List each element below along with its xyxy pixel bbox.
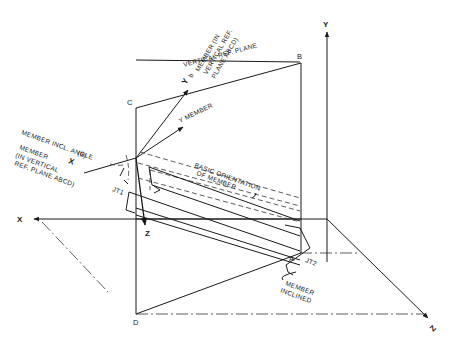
yb-label: Y	[180, 76, 191, 86]
isometric-diagram: Y X Z C B A D Z	[0, 0, 450, 339]
inclination-angle-marker	[120, 155, 129, 184]
x-member-axis-letter: X	[67, 156, 76, 167]
yb-subscript: b	[187, 72, 195, 79]
member-inclined-label-group: MEMBER INCLINED	[280, 272, 316, 304]
diagram-canvas: Y X Z C B A D Z	[0, 0, 450, 339]
vertical-reference-plane-abcd: C B A D	[127, 52, 302, 327]
z-axis-label: Z	[428, 324, 438, 334]
y-axis-label: Y	[323, 20, 329, 29]
basic-orientation-member	[138, 152, 300, 222]
point-c-label: C	[127, 98, 133, 107]
yb-label-group: Y b MEMBER (IN VERTICAL REF. PLANE ABCD)	[180, 28, 240, 86]
y-member-label: Y MEMBER	[177, 101, 213, 123]
joint-2-label: JT2	[305, 256, 319, 267]
point-d-label: D	[133, 318, 139, 327]
point-b-label: B	[297, 52, 302, 61]
ground-plane-lines	[42, 222, 426, 314]
global-y-axis: Y	[323, 20, 329, 262]
y-member-axis	[136, 127, 183, 158]
joint-1-label: JT1	[112, 185, 126, 196]
basic-orientation-label-group: BASIC ORIENTATION OF MEMBER	[194, 161, 262, 198]
member-z-label: Z	[145, 229, 150, 238]
global-z-axis: Z	[327, 219, 438, 333]
x-axis-label: X	[17, 215, 23, 224]
